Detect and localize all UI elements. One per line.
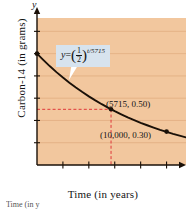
annotation-half-life-point: (5715, 0.50) bbox=[106, 99, 150, 109]
x-axis-title: Time (in years) bbox=[28, 188, 178, 200]
data-point-1 bbox=[164, 129, 169, 134]
data-point-initial bbox=[35, 51, 40, 56]
y-axis-title: Carbon-14 (in grams) bbox=[15, 3, 27, 133]
y-axis-symbol: y bbox=[32, 0, 36, 10]
carbon-14-decay-figure: y Carbon-14 (in grams) Time (in years) y… bbox=[0, 0, 186, 209]
annotation-ten-thousand-point: (10,000, 0.30) bbox=[100, 130, 151, 140]
equation-exponent: t/5715 bbox=[87, 47, 105, 55]
figure-caption: Time (in y bbox=[6, 200, 182, 209]
equation-callout: y=(12)t/5715 bbox=[56, 45, 110, 67]
chart-canvas bbox=[0, 0, 186, 209]
